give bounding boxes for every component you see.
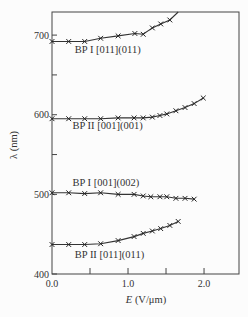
series-label: BP I [001](002)	[73, 177, 140, 189]
x-axis: 0.01.02.0	[46, 268, 211, 289]
x-marker-icon	[183, 105, 188, 110]
series-label: BP I [011](011)	[75, 44, 141, 56]
series-1: BP II [001](001)	[50, 96, 206, 132]
y-tick-label: 600	[34, 109, 49, 120]
x-marker-icon	[201, 96, 206, 101]
series-line	[52, 193, 194, 199]
y-axis-label: λ (nm)	[8, 130, 20, 159]
series-3: BP II [011](011)	[50, 219, 181, 261]
series-label: BP II [011](011)	[75, 249, 145, 261]
y-tick-label: 400	[34, 269, 49, 280]
y-tick-label: 500	[34, 189, 49, 200]
y-tick-label: 700	[34, 30, 49, 41]
series-0: BP I [011](011)	[50, 12, 179, 56]
x-marker-icon	[150, 26, 155, 31]
x-marker-icon	[192, 101, 197, 106]
x-tick-label: 0.0	[46, 278, 59, 289]
x-tick-label: 1.0	[122, 278, 135, 289]
x-axis-label: E (V/μm)	[125, 294, 167, 306]
series-line	[52, 12, 178, 42]
series-line	[52, 221, 178, 244]
y-axis: 400500600700	[34, 30, 57, 280]
series-label: BP II [001](001)	[73, 120, 144, 132]
x-marker-icon	[167, 18, 172, 23]
x-marker-icon	[176, 219, 181, 224]
x-marker-icon	[158, 22, 163, 27]
series-group: BP I [011](011)BP II [001](001)BP I [001…	[50, 12, 206, 261]
series-2: BP I [001](002)	[50, 177, 197, 201]
series-line	[52, 98, 203, 119]
x-tick-label: 2.0	[198, 278, 211, 289]
chart: 0.01.02.0 400500600700 BP I [011](011)BP…	[0, 0, 248, 317]
